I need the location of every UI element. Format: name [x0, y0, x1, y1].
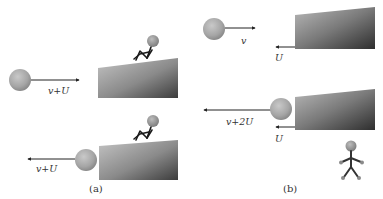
panel-b-bottom: v+2U U	[204, 89, 375, 144]
moving-block	[99, 140, 178, 180]
panel-a: v+U v+U (a)	[9, 35, 178, 194]
observer-head	[147, 35, 159, 47]
panel-b-top: v U	[203, 7, 375, 63]
ball	[270, 98, 292, 120]
seated-observer-figure	[134, 115, 159, 140]
ball-velocity-label: v	[241, 35, 247, 46]
observer-head	[147, 115, 159, 127]
standing-observer-figure	[339, 141, 364, 181]
moving-block	[98, 58, 178, 98]
panel-caption: (b)	[283, 183, 297, 194]
seated-observer-figure	[134, 35, 159, 60]
observer-head	[346, 141, 357, 152]
block-velocity-label: U	[275, 52, 284, 63]
ball-velocity-label: v+2U	[226, 116, 254, 127]
ball	[75, 149, 97, 171]
block-velocity-label: U	[275, 133, 284, 144]
ball-velocity-label: v+U	[36, 163, 58, 174]
ball	[9, 69, 31, 91]
panel-a-top: v+U	[9, 35, 178, 98]
ball	[203, 18, 225, 40]
moving-block	[295, 7, 375, 49]
panel-a-bottom: v+U	[28, 115, 178, 180]
ball-velocity-label: v+U	[48, 85, 70, 96]
collision-diagram: v+U v+U (a)	[0, 0, 383, 199]
panel-b: v U v+2U U (b)	[203, 7, 375, 194]
moving-block	[295, 89, 375, 130]
panel-caption: (a)	[89, 183, 103, 194]
